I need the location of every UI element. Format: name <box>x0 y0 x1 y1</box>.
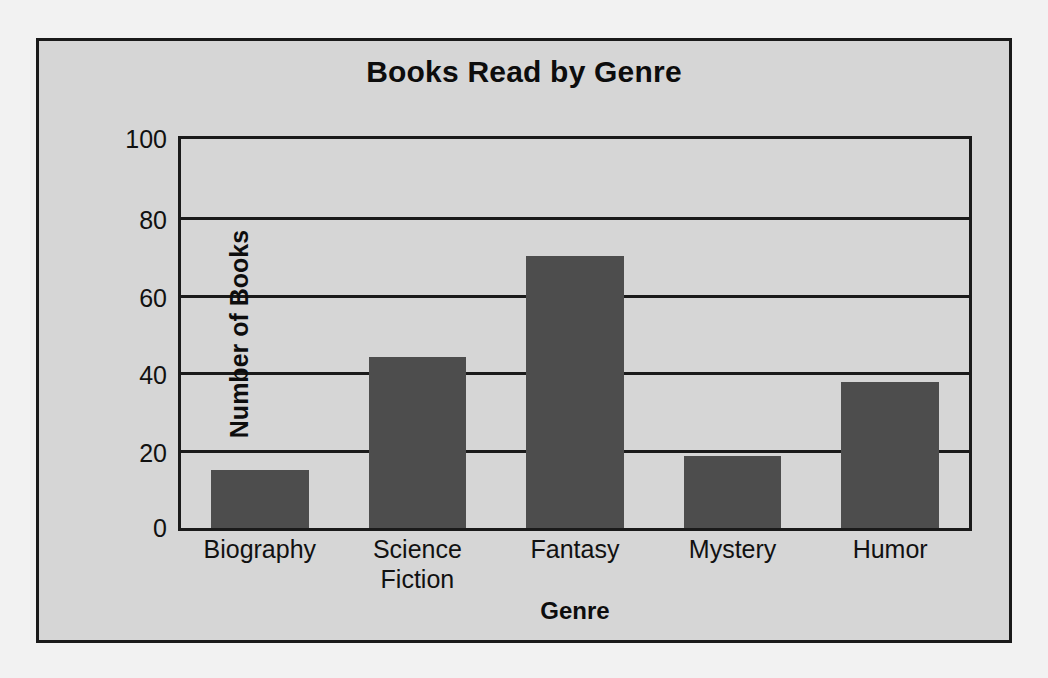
ytick-label-60: 60 <box>139 283 167 312</box>
ytick-label-0: 0 <box>153 514 167 543</box>
bar-science-fiction[interactable] <box>369 357 467 528</box>
ytick-label-20: 20 <box>139 439 167 468</box>
xaxis-title: Genre <box>178 597 972 625</box>
xtick-label-biography: Biography <box>204 535 317 565</box>
xtick-label-science-fiction: Science Fiction <box>373 535 462 594</box>
xtick-label-fantasy: Fantasy <box>531 535 620 565</box>
bar-biography[interactable] <box>211 470 309 528</box>
ytick-label-40: 40 <box>139 361 167 390</box>
bar-humor[interactable] <box>841 382 939 528</box>
bar-slot-science-fiction: Science Fiction <box>339 139 497 528</box>
chart-figure: Books Read by Genre 100 80 60 40 20 0 Bi… <box>36 38 1012 643</box>
bar-slot-humor: Humor <box>811 139 969 528</box>
xtick-label-humor: Humor <box>853 535 928 565</box>
plot-area: 100 80 60 40 20 0 Biography Science Fict… <box>178 136 972 531</box>
bar-slot-fantasy: Fantasy <box>496 139 654 528</box>
bar-slot-mystery: Mystery <box>654 139 812 528</box>
bar-series: Biography Science Fiction Fantasy Myster… <box>181 139 969 528</box>
ytick-label-100: 100 <box>125 125 167 154</box>
ytick-label-80: 80 <box>139 205 167 234</box>
bar-slot-biography: Biography <box>181 139 339 528</box>
bar-fantasy[interactable] <box>526 256 624 528</box>
bar-mystery[interactable] <box>684 456 782 528</box>
chart-title: Books Read by Genre <box>39 55 1009 89</box>
xtick-label-mystery: Mystery <box>689 535 777 565</box>
yaxis-title: Number of Books <box>225 204 254 464</box>
